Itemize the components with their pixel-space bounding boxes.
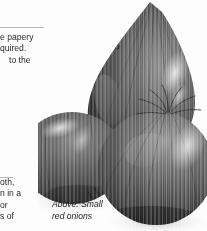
heading-rule bbox=[0, 27, 44, 28]
paragraph-line: oth, bbox=[0, 177, 21, 188]
paragraph-line: or bbox=[0, 200, 21, 211]
onion-photograph bbox=[38, 0, 207, 231]
paragraph-line: to the bbox=[0, 55, 33, 66]
photo-caption: Above: Small red onions bbox=[52, 199, 103, 222]
caption-line: red onions bbox=[52, 211, 103, 223]
paragraph-line: n in a bbox=[0, 188, 21, 199]
caption-line: Above: Small bbox=[52, 199, 103, 211]
scanned-page: ques e papery quired. to the oth, n in a… bbox=[0, 0, 207, 231]
onion-photo-graphic bbox=[38, 0, 207, 231]
paragraph-line: e papery bbox=[0, 32, 33, 43]
article-text-column: ques e papery quired. to the oth, n in a… bbox=[0, 0, 46, 231]
upper-paragraph: e papery quired. to the bbox=[0, 32, 33, 66]
paragraph-line: s of bbox=[0, 211, 21, 222]
lower-paragraph: oth, n in a or s of bbox=[0, 177, 21, 223]
paragraph-line: quired. bbox=[0, 43, 33, 54]
